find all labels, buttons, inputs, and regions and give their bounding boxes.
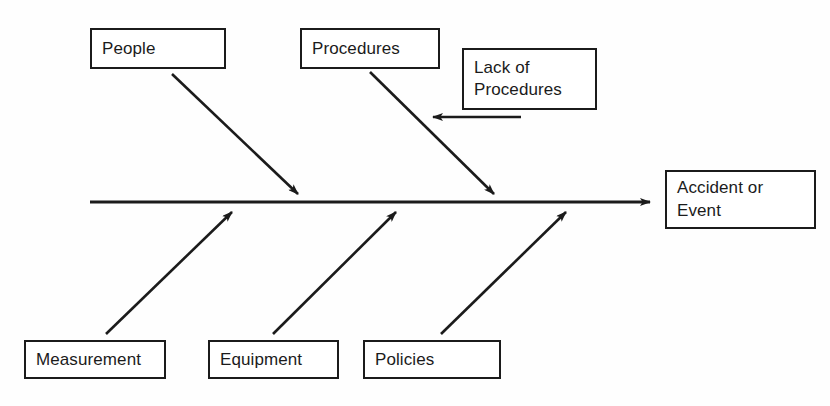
rib-people <box>172 74 298 194</box>
sub-cause-label-lack-of-procedures: Lack of Procedures <box>474 57 562 101</box>
sub-cause-box-lack-of-procedures[interactable]: Lack of Procedures <box>462 48 597 110</box>
cause-label-policies: Policies <box>375 349 434 371</box>
cause-box-procedures[interactable]: Procedures <box>300 28 440 69</box>
cause-box-policies[interactable]: Policies <box>363 340 501 379</box>
cause-label-people: People <box>102 38 156 60</box>
effect-box-accident-or-event[interactable]: Accident or Event <box>665 170 816 229</box>
cause-label-equipment: Equipment <box>220 349 302 371</box>
cause-box-equipment[interactable]: Equipment <box>208 340 339 379</box>
rib-policies <box>441 212 566 334</box>
cause-box-measurement[interactable]: Measurement <box>24 340 166 379</box>
cause-label-procedures: Procedures <box>312 38 400 60</box>
cause-label-measurement: Measurement <box>36 349 141 371</box>
effect-label: Accident or Event <box>677 177 763 221</box>
rib-measurement <box>106 212 232 334</box>
rib-equipment <box>273 212 396 334</box>
cause-box-people[interactable]: People <box>90 28 226 69</box>
fishbone-diagram-canvas: People Procedures Lack of Procedures Acc… <box>0 0 830 406</box>
